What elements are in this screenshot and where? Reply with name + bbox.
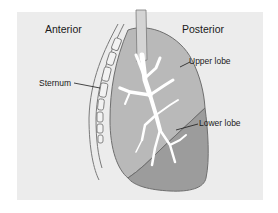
sternum-label: Sternum [39, 79, 71, 88]
lower-lobe-label: Lower lobe [199, 119, 241, 128]
sternum-leader-line [74, 83, 100, 88]
lung-lateral-view-diagram [0, 0, 278, 213]
anterior-heading: Anterior [45, 24, 82, 35]
upper-lobe-label: Upper lobe [189, 57, 231, 66]
posterior-heading: Posterior [182, 24, 224, 35]
